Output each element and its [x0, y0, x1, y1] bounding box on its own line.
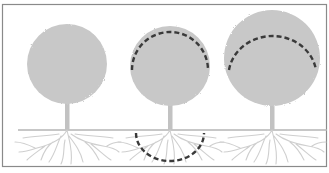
roots	[15, 130, 121, 164]
tree-growth-diagram	[0, 0, 329, 173]
tree-2	[118, 26, 224, 164]
roots	[220, 130, 326, 164]
roots	[118, 130, 224, 164]
diagram-canvas	[0, 0, 329, 173]
canopy	[27, 24, 107, 104]
tree-1	[15, 24, 121, 164]
tree-3	[220, 10, 326, 164]
canopy	[130, 26, 210, 106]
canopy	[224, 10, 320, 106]
